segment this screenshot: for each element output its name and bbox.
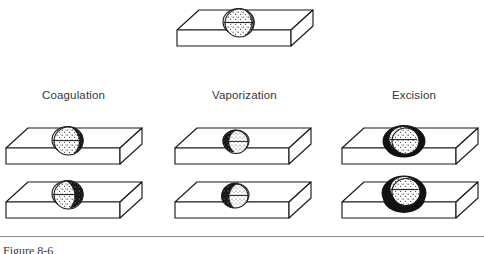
vaporization-stage-2: [175, 182, 311, 218]
coagulation-stage-1: [6, 127, 142, 165]
column-label-coagulation: Coagulation: [42, 89, 105, 101]
figure-caption: Figure 8-6: [3, 244, 53, 254]
lesion-sphere: [221, 183, 249, 208]
column-label-vaporization: Vaporization: [212, 89, 277, 101]
excision-stage-1: [342, 126, 478, 165]
coagulation-stage-2: [6, 181, 142, 219]
lesion-sphere: [223, 130, 249, 154]
excision-stage-2: [342, 176, 478, 218]
column-label-excision: Excision: [392, 89, 436, 101]
reference-block: [177, 9, 313, 47]
footer-divider: [0, 236, 484, 237]
vaporization-stage-1: [175, 128, 311, 164]
